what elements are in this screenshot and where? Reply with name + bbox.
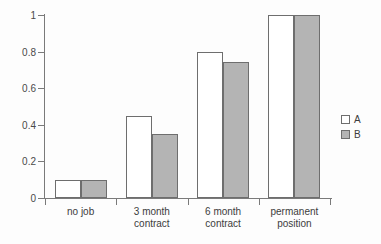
y-axis-tick-label: 0.6 [22,83,36,94]
x-axis-category-label: no job [45,206,116,218]
bar-b-3[interactable] [294,15,320,198]
bar-a-2[interactable] [197,52,223,198]
y-axis-tick [38,198,44,199]
x-axis-tick [330,199,331,205]
bar-a-0[interactable] [55,180,81,198]
y-axis-tick [38,88,44,89]
x-axis-category-label: 6 month contract [188,206,259,230]
x-axis-category-label: 3 month contract [116,206,187,230]
legend-swatch-b-icon [341,130,350,139]
y-axis-tick-label: 0.8 [22,46,36,57]
bar-b-1[interactable] [152,134,178,198]
y-axis-tick [38,125,44,126]
x-axis-tick [188,199,189,205]
bar-chart: 00.20.40.60.81 no job3 month contract6 m… [0,0,381,244]
bar-a-3[interactable] [268,15,294,198]
legend-swatch-a-icon [341,115,350,124]
y-axis-tick-label: 0.4 [22,119,36,130]
plot-area [45,15,330,198]
y-axis-tick-label: 0.2 [22,156,36,167]
y-axis-tick [38,52,44,53]
x-axis-tick [116,199,117,205]
legend-label-a: A [354,115,361,125]
x-axis-tick [45,199,46,205]
bar-b-2[interactable] [223,62,249,198]
legend-item-b[interactable]: B [341,128,361,141]
bar-a-1[interactable] [126,116,152,198]
legend: A B [341,113,361,143]
x-axis-tick [259,199,260,205]
legend-item-a[interactable]: A [341,113,361,126]
y-axis-tick-label: 1 [30,10,36,21]
y-axis-tick [38,161,44,162]
x-axis-category-label: permanent position [259,206,330,230]
bar-b-0[interactable] [81,180,107,198]
legend-label-b: B [354,130,361,140]
y-axis-tick-label: 0 [30,193,36,204]
y-axis-tick [38,15,44,16]
